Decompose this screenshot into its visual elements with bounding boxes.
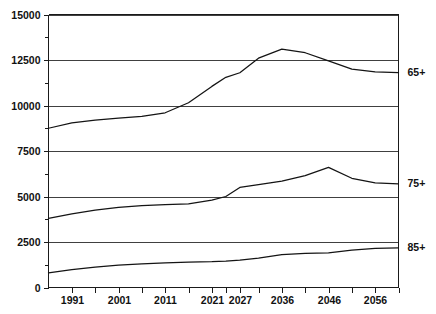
gridlines: [49, 16, 399, 243]
x-tick-label-2021: 2021: [201, 294, 225, 306]
x-tick-label-2036: 2036: [271, 294, 295, 306]
x-tick-label-2027: 2027: [229, 294, 253, 306]
y-tick-label-15000: 15000: [11, 9, 40, 21]
x-tick-label-2056: 2056: [364, 294, 388, 306]
series-label-65plus: 65+: [408, 66, 426, 78]
y-axis-ticks: [44, 16, 49, 289]
y-tick-label-7500: 7500: [17, 145, 41, 157]
series-line-65plus: [49, 49, 399, 128]
series-labels: 65+75+85+: [408, 66, 426, 253]
series-line-75plus: [49, 167, 399, 218]
axis-frame: [49, 15, 399, 288]
series-label-75plus: 75+: [408, 177, 426, 189]
x-tick-label-2011: 2011: [154, 294, 177, 306]
series-line-85plus: [49, 248, 399, 273]
x-tick-label-2046: 2046: [318, 294, 342, 306]
data-series: [49, 49, 399, 273]
x-axis-ticks: [73, 288, 400, 293]
line-chart: 0250050007500100001250015000 19912001201…: [0, 0, 436, 314]
y-axis-tick-labels: 0250050007500100001250015000: [11, 9, 40, 294]
series-label-85plus: 85+: [408, 241, 426, 253]
y-tick-label-10000: 10000: [11, 100, 40, 112]
chart-canvas: 0250050007500100001250015000 19912001201…: [0, 0, 436, 314]
x-tick-label-1991: 1991: [61, 294, 85, 306]
y-tick-label-5000: 5000: [17, 191, 41, 203]
x-axis-tick-labels: 19912001201120212027203620462056: [61, 294, 388, 306]
y-tick-label-2500: 2500: [17, 236, 41, 248]
x-tick-label-2001: 2001: [108, 294, 132, 306]
y-tick-label-0: 0: [35, 282, 41, 294]
y-tick-label-12500: 12500: [11, 54, 40, 66]
